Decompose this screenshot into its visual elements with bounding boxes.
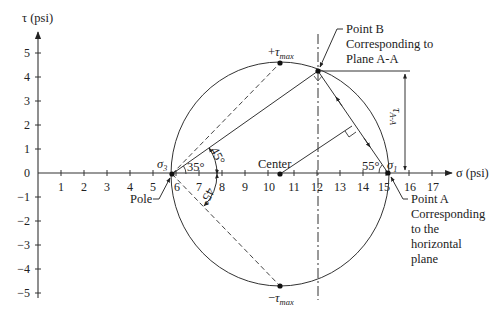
tau-max-pos-point [277, 60, 282, 65]
sigma-tick-1: 1 [58, 180, 64, 194]
point-a-label-line2: Corresponding [411, 207, 486, 221]
sigma-tick-2: 2 [81, 180, 87, 194]
mohr-circle-diagram: 5 4 3 2 1 0 −1 −2 −3 −4 −5 1 2 3 4 [0, 0, 502, 316]
tau-tick-neg3: −3 [17, 238, 30, 252]
center-point [277, 171, 282, 176]
tau-tick-0: 0 [24, 166, 30, 180]
sigma-3-label: σ3 [157, 157, 167, 173]
sigma-tick-8: 8 [219, 180, 225, 194]
angle-45-upper-label: 45° [207, 145, 228, 167]
sigma-tick-3: 3 [104, 180, 110, 194]
sigma-tick-13: 13 [334, 180, 346, 194]
tau-tick-neg4: −4 [17, 262, 30, 276]
sigma-tick-6: 6 [174, 180, 180, 194]
sigma-1-label: σ1 [387, 158, 397, 174]
point-b-to-point-a-line [318, 71, 388, 173]
tau-tick-neg1: −1 [17, 190, 30, 204]
tau-axis-tick-labels: 5 4 3 2 1 0 −1 −2 −3 −4 −5 [17, 46, 30, 300]
point-a-label-line3: to the [411, 222, 440, 236]
right-angle-marker [345, 131, 356, 137]
angle-35-label: 35° [187, 160, 205, 174]
pole-label: Pole [130, 192, 153, 206]
tau-max-pos-label: +τmax [268, 45, 294, 61]
center-label: Center [258, 157, 292, 171]
sigma-tick-9: 9 [242, 180, 248, 194]
sigma-axis-tick-labels: 1 2 3 4 5 6 7 8 9 10 11 12 13 14 15 16 1… [58, 180, 439, 194]
sigma-tick-12: 12 [311, 180, 323, 194]
pole-point [169, 171, 174, 176]
pole-to-point-b-line [172, 71, 318, 174]
point-a-label-line1: Point A [411, 192, 449, 206]
tau-tick-5: 5 [24, 46, 30, 60]
tau-aa-label: τA-A [388, 108, 404, 125]
angle-55-label: 55° [362, 159, 380, 173]
tau-tick-3: 3 [24, 94, 30, 108]
tau-axis-title: τ (psi) [22, 11, 53, 25]
chord-arrow-down [364, 138, 370, 147]
tau-max-neg-point [277, 283, 282, 288]
tau-tick-neg2: −2 [17, 214, 30, 228]
chord-arrow-up [336, 97, 342, 106]
svg-text:τA-A: τA-A [388, 108, 404, 125]
point-b-label-line3: Plane A-A [346, 52, 398, 66]
tau-tick-4: 4 [24, 70, 30, 84]
tau-max-neg-label: −τmax [268, 291, 294, 307]
sigma-tick-14: 14 [357, 180, 369, 194]
point-a-label-line5: plane [411, 252, 439, 266]
tau-tick-1: 1 [24, 142, 30, 156]
sigma-tick-11: 11 [288, 180, 300, 194]
tau-tick-2: 2 [24, 118, 30, 132]
tau-tick-neg5: −5 [17, 286, 30, 300]
point-a-label-line4: horizontal [411, 237, 462, 251]
point-b [315, 68, 320, 73]
sigma-tick-7: 7 [196, 180, 202, 194]
point-b-label-line2: Corresponding to [346, 37, 433, 51]
point-b-leader [320, 29, 343, 67]
point-b-label-line1: Point B [346, 22, 384, 36]
sigma-tick-10: 10 [263, 180, 275, 194]
sigma-axis-title: σ (psi) [456, 166, 489, 180]
